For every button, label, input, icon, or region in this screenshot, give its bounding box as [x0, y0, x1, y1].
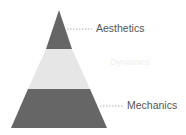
label-aesthetics: Aesthetics — [96, 22, 144, 34]
layer-mechanics — [11, 89, 107, 128]
pyramid-diagram — [0, 0, 186, 135]
label-dynamics: Dynamics — [110, 57, 150, 67]
layer-dynamics — [28, 49, 90, 89]
label-mechanics: Mechanics — [127, 99, 177, 111]
